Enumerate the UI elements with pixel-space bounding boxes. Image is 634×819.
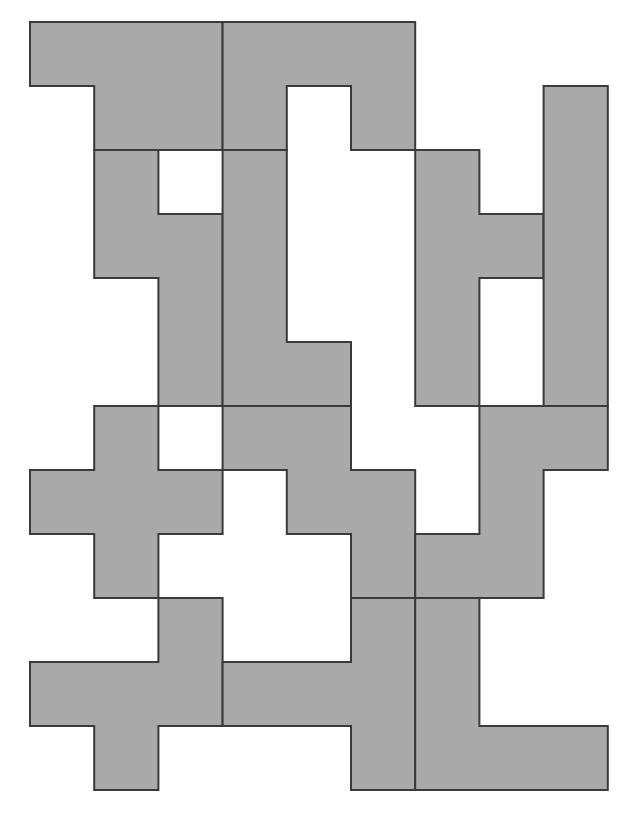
piece-p9 (415, 406, 608, 598)
piece-p7 (30, 406, 223, 598)
piece-p11 (223, 598, 416, 790)
piece-p2 (223, 22, 416, 150)
polyomino-diagram (0, 0, 634, 819)
piece-p1 (30, 22, 223, 150)
piece-p4 (223, 150, 351, 406)
piece-p12 (415, 598, 608, 790)
piece-p8 (223, 406, 416, 598)
piece-p5 (415, 150, 543, 406)
piece-p3 (94, 150, 222, 406)
piece-p6 (544, 86, 608, 406)
piece-p10 (30, 598, 223, 790)
